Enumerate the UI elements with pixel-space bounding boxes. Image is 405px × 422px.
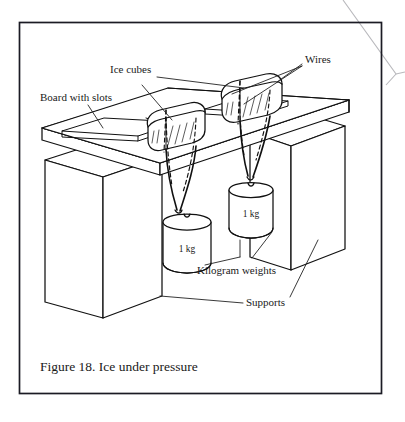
- kilogram-weights-label-text: Kilogram weights: [197, 264, 276, 276]
- figure-caption-text: Figure 18. Ice under pressure: [40, 359, 198, 374]
- ice-under-pressure-diagram: 1 kg 1 kg Board with slots Ice cubes: [0, 0, 405, 422]
- weight-right-label: 1 kg: [243, 209, 260, 219]
- page-fold-artifact: [343, 0, 405, 85]
- ice-cubes-label-text: Ice cubes: [110, 63, 151, 75]
- figure-caption: Figure 18. Ice under pressure: [40, 359, 198, 374]
- figure-container: 1 kg 1 kg Board with slots Ice cubes: [0, 0, 405, 422]
- board-with-slots-label-text: Board with slots: [40, 91, 112, 103]
- weight-left-label: 1 kg: [179, 244, 196, 254]
- wires-label-text: Wires: [305, 53, 331, 65]
- supports-label-text: Supports: [246, 296, 285, 308]
- weight-right: 1 kg: [229, 183, 273, 239]
